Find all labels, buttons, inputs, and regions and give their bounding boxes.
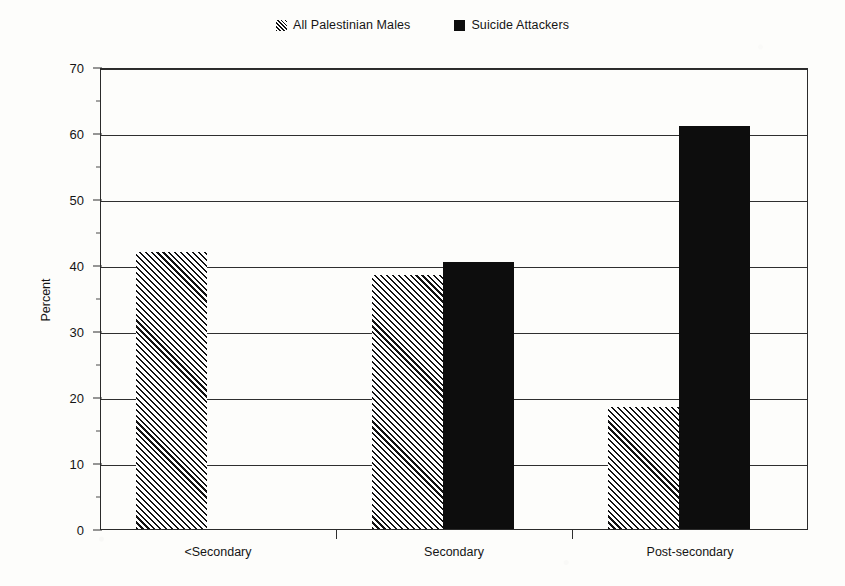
y-tick-label-10: 10 bbox=[38, 457, 84, 472]
y-tick-label-30: 30 bbox=[38, 325, 84, 340]
y-axis-title: Percent bbox=[39, 278, 53, 321]
y-tick-label-60: 60 bbox=[38, 127, 84, 142]
chart-figure: All Palestinian Males Suicide Attackers … bbox=[0, 0, 845, 586]
category-separator-1 bbox=[336, 530, 337, 539]
plot-area bbox=[100, 68, 808, 530]
bar-secondary-all-males bbox=[136, 252, 207, 529]
bar-secondary-all-males bbox=[372, 275, 443, 529]
legend-label-suicide-attackers: Suicide Attackers bbox=[471, 18, 569, 32]
bar-postsecondary-attackers bbox=[679, 126, 750, 529]
y-tick-label-50: 50 bbox=[38, 193, 84, 208]
chart-legend: All Palestinian Males Suicide Attackers bbox=[0, 18, 845, 32]
bar-postsecondary-all-males bbox=[608, 407, 679, 529]
legend-label-all-palestinian-males: All Palestinian Males bbox=[293, 18, 410, 32]
legend-entry-all-palestinian-males: All Palestinian Males bbox=[276, 18, 410, 32]
x-axis-label-secondary: <Secondary bbox=[184, 545, 251, 559]
y-tick-label-20: 20 bbox=[38, 391, 84, 406]
x-axis-label-secondary: Secondary bbox=[424, 545, 484, 559]
category-separator-2 bbox=[572, 530, 573, 539]
bar-secondary-attackers bbox=[443, 262, 514, 529]
y-tick-label-40: 40 bbox=[38, 259, 84, 274]
y-tick-label-0: 0 bbox=[38, 523, 84, 538]
bars-layer bbox=[101, 69, 807, 529]
legend-entry-suicide-attackers: Suicide Attackers bbox=[454, 18, 569, 32]
y-tick-label-70: 70 bbox=[38, 61, 84, 76]
x-axis-label-postsecondary: Post-secondary bbox=[647, 545, 734, 559]
legend-swatch-solid-icon bbox=[454, 20, 465, 31]
legend-swatch-hatch-icon bbox=[276, 20, 287, 31]
